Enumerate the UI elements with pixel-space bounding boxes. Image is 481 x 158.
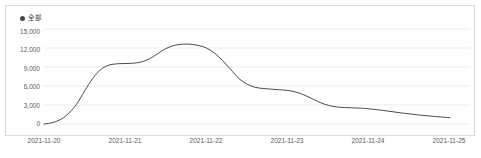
chart-gridlines <box>44 29 470 124</box>
chart-plot-area <box>0 0 481 158</box>
chart-line-series <box>44 44 450 124</box>
